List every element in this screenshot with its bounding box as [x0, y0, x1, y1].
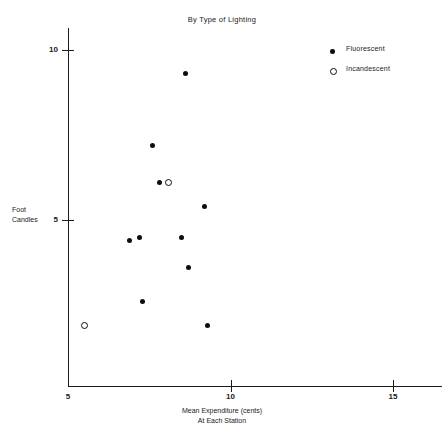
data-point-fluorescent — [157, 180, 162, 185]
data-point-fluorescent — [127, 238, 132, 243]
data-point-fluorescent — [202, 204, 207, 209]
data-point-fluorescent — [150, 143, 155, 148]
data-point-incandescent — [81, 322, 88, 329]
data-point-fluorescent — [205, 323, 210, 328]
data-point-fluorescent — [186, 265, 191, 270]
data-point-fluorescent — [137, 235, 142, 240]
scatter-chart-figure: By Type of Lighting 510 51015 Foot Candl… — [0, 0, 444, 439]
filled-circle-icon — [330, 49, 335, 54]
legend-item-label: Fluorescent — [346, 45, 385, 52]
data-point-fluorescent — [179, 235, 184, 240]
data-point-incandescent — [165, 179, 172, 186]
open-circle-icon — [330, 68, 337, 75]
legend-item-label: Incandescent — [346, 65, 390, 72]
data-point-fluorescent — [140, 299, 145, 304]
data-point-fluorescent — [183, 71, 188, 76]
